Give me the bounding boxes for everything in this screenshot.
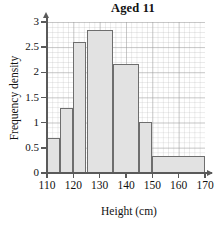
y-axis-tick-label: 2 [34,65,40,77]
histogram-bar [152,156,205,173]
histogram-bar [87,30,113,173]
y-axis-tick-label: 1 [34,116,40,128]
y-axis-label: Frequency density [8,23,20,173]
y-axis-tick-label: 3 [34,15,40,27]
y-axis-tick-label: 0.5 [25,141,39,153]
histogram-chart: Aged 11 Frequency density 00.511.522.53 … [0,0,220,227]
plot-area [47,22,205,173]
y-axis-tick [41,21,47,22]
x-axis-tick [152,172,153,178]
x-axis-tick-label: 160 [166,179,192,191]
x-axis-tick [125,172,126,178]
y-axis-tick [41,46,47,47]
y-axis-arrow-icon [43,12,49,18]
chart-title: Aged 11 [78,1,188,16]
x-axis-tick-label: 140 [113,179,139,191]
x-axis-tick [178,172,179,178]
x-axis-tick [73,172,74,178]
histogram-bar [139,122,152,173]
histogram-bar [47,138,60,173]
y-axis-tick [41,72,47,73]
x-axis-tick-label: 130 [87,179,113,191]
y-axis-tick [41,147,47,148]
x-axis-tick-label: 150 [139,179,165,191]
x-axis-tick [46,172,47,178]
x-axis-line [46,172,212,174]
histogram-bar [60,108,73,173]
y-axis-tick-label: 2.5 [25,40,39,52]
histogram-bar [113,64,139,173]
y-axis-tick [41,122,47,123]
x-axis-tick-label: 110 [34,179,60,191]
x-axis-tick-label: 170 [192,179,218,191]
x-axis-tick [204,172,205,178]
y-axis-tick [41,97,47,98]
x-axis-arrow-icon [207,170,213,176]
x-axis-tick-label: 120 [60,179,86,191]
y-axis-tick-label: 0 [34,166,40,178]
histogram-bar [73,42,86,173]
y-axis-tick-label: 1.5 [25,91,39,103]
x-axis-tick [99,172,100,178]
x-axis-label: Height (cm) [44,205,214,217]
